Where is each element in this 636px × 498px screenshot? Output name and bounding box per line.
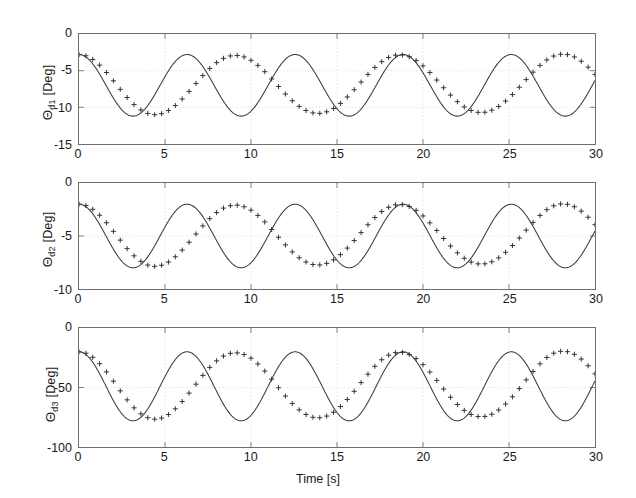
axes-box-1 — [78, 33, 596, 145]
xtick-label: 5 — [144, 451, 184, 464]
subplot-theta-d3: 0 -50 -100 0 5 10 15 20 25 30 Θd3 [Deg] … — [0, 294, 636, 498]
ylabel-unit: [Deg] — [41, 212, 55, 247]
data-line-3 — [79, 352, 595, 421]
xlabel-time: Time [s] — [0, 472, 636, 486]
ytick-label: 0 — [0, 176, 72, 189]
figure-canvas: 0 -5 -10 -15 0 5 10 15 20 25 30 Θd1 [Deg… — [0, 0, 636, 498]
ylabel-theta-d1: Θd1 [Deg] — [40, 33, 57, 153]
theta-subscript: d3 — [50, 401, 60, 411]
subplot-theta-d1: 0 -5 -10 -15 0 5 10 15 20 25 30 Θd1 [Deg… — [0, 0, 636, 170]
axes-box-2 — [78, 182, 596, 290]
theta-symbol: Θ — [43, 412, 58, 423]
ytick-label: 0 — [0, 27, 72, 40]
ylabel-unit: [Deg] — [41, 65, 55, 100]
xtick-label: 15 — [317, 451, 357, 464]
data-markers-1 — [79, 52, 595, 117]
tickmarks-1 — [79, 34, 595, 144]
axes-box-3 — [78, 327, 596, 448]
gridlines-3 — [79, 328, 595, 447]
xtick-label: 10 — [231, 451, 271, 464]
ytick-label: -5 — [0, 230, 72, 243]
data-line-1 — [79, 55, 595, 117]
ytick-label: 0 — [0, 321, 72, 334]
plot-area-1 — [79, 34, 595, 144]
xtick-label: 25 — [490, 451, 530, 464]
ytick-label: -5 — [0, 64, 72, 77]
plot-area-2 — [79, 183, 595, 289]
plot-area-3 — [79, 328, 595, 447]
subplot-theta-d2: 0 -5 -10 0 5 10 15 20 25 30 Θd2 [Deg] — [0, 149, 636, 315]
gridlines-1 — [79, 34, 595, 144]
xtick-label: 30 — [576, 451, 616, 464]
ylabel-unit: [Deg] — [44, 367, 58, 402]
xtick-label: 0 — [58, 451, 98, 464]
series-theta-d1 — [79, 52, 595, 117]
theta-subscript: d2 — [47, 246, 57, 256]
gridlines-2 — [79, 183, 595, 289]
theta-symbol: Θ — [40, 110, 55, 121]
ytick-label: -10 — [0, 101, 72, 114]
xtick-label: 20 — [403, 451, 443, 464]
theta-symbol: Θ — [40, 257, 55, 268]
ylabel-theta-d3: Θd3 [Deg] — [43, 330, 60, 460]
ylabel-theta-d2: Θd2 [Deg] — [40, 180, 57, 300]
theta-subscript: d1 — [47, 99, 57, 109]
ytick-label: -50 — [0, 381, 72, 394]
